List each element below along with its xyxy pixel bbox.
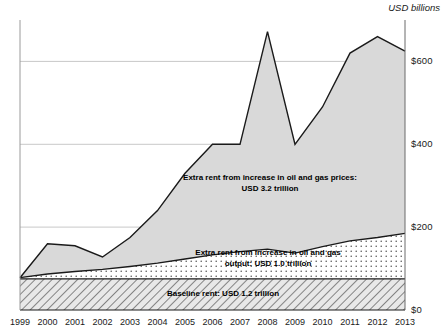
chart-container: USD billions $600 $400 $200 $0 1999 2000… <box>0 0 446 335</box>
y-tick-label-200: $200 <box>411 221 433 232</box>
annotation-output-line1: Extra rent from increase in oil and gas <box>195 248 340 257</box>
y-tick-label-0: $0 <box>411 304 422 315</box>
stacked-area-chart <box>0 0 446 335</box>
annotation-baseline-line1: Baseline rent: USD 1.2 trillion <box>167 289 279 298</box>
y-tick-label-400: $400 <box>411 138 433 149</box>
annotation-output-line2: output: USD 1.0 trillion <box>225 259 312 268</box>
annotation-baseline-band: Baseline rent: USD 1.2 trillion <box>118 288 328 299</box>
y-tick-label-600: $600 <box>411 55 433 66</box>
annotation-price-line2: USD 3.2 trillion <box>242 184 299 193</box>
y-axis-units-label: USD billions <box>388 2 440 13</box>
annotation-price-line1: Extra rent from increase in oil and gas … <box>183 173 357 182</box>
annotation-price-band: Extra rent from increase in oil and gas … <box>155 172 385 194</box>
x-tick-label-2013: 2013 <box>387 317 423 327</box>
annotation-output-band: Extra rent from increase in oil and gas … <box>143 247 393 269</box>
